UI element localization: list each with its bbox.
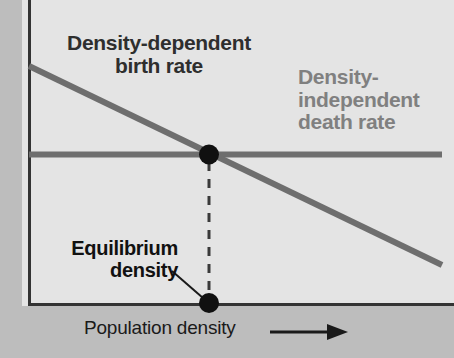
equilibrium-density-axis-marker [199,293,219,313]
death-rate-label: Density- independent death rate [298,66,448,134]
equilibrium-density-label: Equilibrium density [30,238,178,281]
birth-rate-label: Density-dependent birth rate [34,32,284,77]
x-axis-arrow-icon [270,324,348,340]
x-axis-label: Population density [84,318,236,339]
figure-container: Density-dependent birth rate Density- in… [0,0,454,358]
equilibrium-point-marker [199,145,219,165]
